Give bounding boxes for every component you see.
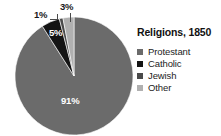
legend-swatch-other-icon — [137, 85, 143, 91]
leader-line-jewish-vertical — [57, 14, 58, 20]
legend-list: ProtestantCatholicJewishOther — [137, 46, 221, 93]
slice-label-jewish: 1% — [34, 10, 47, 20]
slice-label-protestant: 91% — [61, 96, 79, 106]
legend-swatch-protestant-icon — [137, 49, 143, 55]
slice-label-other: 3% — [60, 2, 73, 12]
legend-item-label: Protestant — [148, 46, 190, 57]
pie-svg — [0, 0, 136, 136]
legend-item-label: Jewish — [148, 70, 176, 81]
chart-title: Religions, 1850 — [137, 26, 221, 38]
legend-item-catholic[interactable]: Catholic — [137, 58, 221, 69]
legend-swatch-catholic-icon — [137, 61, 143, 67]
legend-item-protestant[interactable]: Protestant — [137, 46, 221, 57]
legend-item-label: Catholic — [148, 58, 182, 69]
legend-swatch-jewish-icon — [137, 73, 143, 79]
slice-label-catholic: 5% — [49, 28, 62, 38]
pie-slice-group — [15, 17, 133, 135]
legend-item-jewish[interactable]: Jewish — [137, 70, 221, 81]
legend: Religions, 1850 ProtestantCatholicJewish… — [137, 26, 221, 94]
leader-line-other-vertical — [70, 13, 71, 22]
legend-item-other[interactable]: Other — [137, 82, 221, 93]
legend-item-label: Other — [148, 82, 171, 93]
pie-plot-area: 91% 5% 1% 3% — [0, 0, 136, 136]
pie-chart-figure: 91% 5% 1% 3% Religions, 1850 ProtestantC… — [0, 0, 221, 136]
